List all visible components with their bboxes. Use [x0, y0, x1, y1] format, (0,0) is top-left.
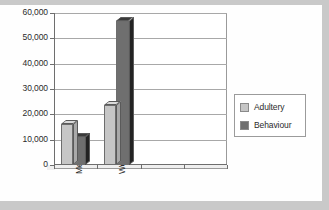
- plot-area: [54, 13, 227, 165]
- gridline: [54, 89, 227, 90]
- gridline: [54, 13, 227, 14]
- bar-front-face: [104, 105, 116, 165]
- y-axis-labels: 010,00020,00030,00040,00050,00060,000: [0, 5, 48, 201]
- x-axis-tick: [97, 165, 98, 169]
- y-axis-tick: [50, 140, 55, 141]
- legend-label-behaviour: Behaviour: [254, 120, 291, 130]
- y-axis-tick-label: 10,000: [23, 134, 48, 144]
- bar-front-face: [61, 124, 73, 165]
- bar-women-adultery: [104, 105, 116, 165]
- y-axis-tick: [50, 114, 55, 115]
- legend-label-adultery: Adultery: [254, 102, 284, 112]
- scan-edge-right: [322, 0, 329, 210]
- legend-swatch-adultery: [240, 103, 249, 112]
- y-axis-tick: [50, 38, 55, 39]
- y-axis-tick-label: 50,000: [23, 32, 48, 42]
- legend-item-adultery: Adultery: [240, 102, 284, 112]
- x-axis-tick: [184, 165, 185, 169]
- y-axis-tick-label: 40,000: [23, 58, 48, 68]
- bar-men-adultery: [61, 124, 73, 165]
- y-axis-tick: [50, 13, 55, 14]
- legend-swatch-behaviour: [240, 121, 249, 130]
- chart-canvas: 010,00020,00030,00040,00050,00060,000 Me…: [0, 5, 322, 201]
- gridline: [54, 64, 227, 65]
- y-axis-tick: [50, 64, 55, 65]
- bar-side-face: [85, 133, 90, 165]
- y-axis-tick-label: 30,000: [23, 83, 48, 93]
- y-axis-tick-label: 60,000: [23, 7, 48, 17]
- gridline: [54, 114, 227, 115]
- scan-edge-bottom: [0, 201, 329, 210]
- legend-item-behaviour: Behaviour: [240, 120, 291, 130]
- y-axis-tick-label: 20,000: [23, 108, 48, 118]
- x-axis-tick: [54, 165, 55, 169]
- chart-legend: Adultery Behaviour: [234, 94, 306, 137]
- y-axis-tick-label: 0: [43, 159, 48, 169]
- x-axis-tick: [141, 165, 142, 169]
- gridline: [54, 38, 227, 39]
- bar-side-face: [73, 121, 78, 165]
- y-axis-tick: [50, 89, 55, 90]
- bar-side-face: [129, 17, 134, 165]
- bar-side-face: [116, 102, 121, 165]
- x-axis-tick: [227, 165, 228, 169]
